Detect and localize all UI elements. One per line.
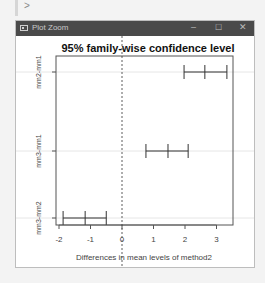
x-axis-label: Differences in mean levels of method2	[76, 253, 212, 262]
x-tick-label: 0	[120, 235, 125, 244]
x-tick-label: 3	[214, 235, 219, 244]
x-tick-label: 2	[183, 235, 188, 244]
y-category-label: mm3-mm2	[35, 201, 42, 235]
x-tick-label: -1	[87, 235, 95, 244]
x-tick-label: 1	[151, 235, 156, 244]
y-category-label: mm2-mm1	[35, 55, 42, 89]
y-category-label: mm3-mm1	[35, 134, 42, 168]
plot-frame	[56, 56, 233, 225]
chart-title: 95% family-wise confidence level	[61, 42, 234, 54]
tukey-hsd-plot: 95% family-wise confidence levelmm2-mm1m…	[0, 0, 265, 283]
x-tick-label: -2	[55, 235, 63, 244]
